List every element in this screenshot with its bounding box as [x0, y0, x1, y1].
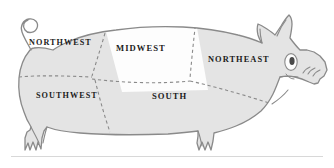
region-label-southwest: SOUTHWEST — [36, 92, 98, 100]
region-label-midwest: MIDWEST — [116, 44, 166, 53]
bottom-divider-rule — [11, 156, 323, 157]
pig-region-map-figure: NORTHWEST MIDWEST NORTHEAST SOUTHWEST SO… — [0, 0, 334, 168]
pig-illustration — [0, 0, 334, 168]
region-label-northwest: NORTHWEST — [29, 39, 92, 47]
region-label-northeast: NORTHEAST — [208, 56, 270, 64]
region-label-south: SOUTH — [152, 92, 187, 101]
